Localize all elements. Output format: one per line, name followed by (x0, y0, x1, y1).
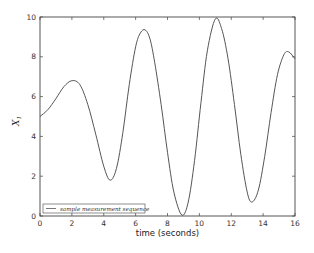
x-axis-label: time (seconds) (136, 228, 199, 238)
x-tick-label: 16 (290, 219, 300, 228)
y-tick-label: 8 (31, 52, 36, 61)
y-axis-label: X1 (11, 116, 22, 127)
legend: sample measurement sequence (43, 204, 150, 213)
y-tick-label: 0 (31, 212, 36, 221)
x-tick-label: 14 (258, 219, 268, 228)
y-tick-label: 4 (31, 132, 36, 141)
x-tick-label: 2 (69, 219, 74, 228)
x-tick-label: 6 (133, 219, 138, 228)
series-line-sample-measurement-sequence (40, 18, 295, 215)
y-tick-label: 6 (31, 92, 36, 101)
y-axis-ticks: 0246810 (26, 13, 295, 221)
x-tick-label: 10 (195, 219, 205, 228)
x-tick-label: 4 (101, 219, 106, 228)
line-chart: 0246810 0246810121416 sample measurement… (0, 0, 314, 253)
y-tick-label: 10 (26, 13, 36, 22)
x-tick-label: 12 (226, 219, 236, 228)
x-axis-ticks: 0246810121416 (38, 17, 300, 228)
y-tick-label: 2 (31, 172, 36, 181)
legend-label: sample measurement sequence (60, 206, 150, 213)
x-tick-label: 0 (38, 219, 43, 228)
plot-area-frame (40, 17, 295, 216)
x-tick-label: 8 (165, 219, 170, 228)
